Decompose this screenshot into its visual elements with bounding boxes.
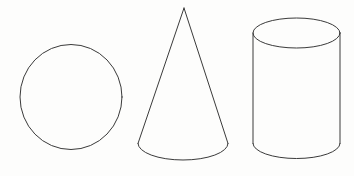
cone-left-slant-edge	[138, 8, 184, 144]
cylinder-bottom-arc	[253, 144, 340, 159]
shapes-drawing-canvas	[0, 0, 354, 176]
cylinder-top-ellipse	[253, 18, 340, 48]
shape-circle	[20, 45, 122, 150]
circle-outline	[20, 45, 122, 150]
geometric-shapes-figure	[0, 0, 354, 176]
shape-cone	[138, 8, 228, 160]
cone-base-arc	[138, 144, 228, 160]
cone-right-slant-edge	[184, 8, 228, 144]
shape-cylinder	[253, 18, 340, 159]
